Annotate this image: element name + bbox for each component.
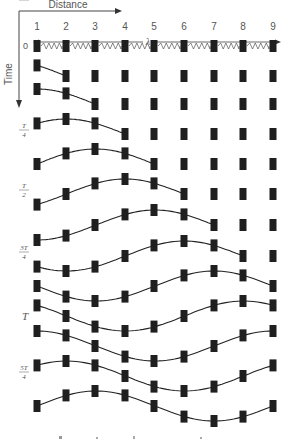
- time-axis: Time: [3, 11, 22, 108]
- mass-block: [240, 40, 247, 52]
- mass-block: [211, 70, 218, 82]
- mass-block: [270, 128, 277, 140]
- spring: [99, 43, 121, 49]
- wave-curve: [37, 179, 184, 205]
- spring: [41, 43, 62, 49]
- mass-block: [151, 400, 158, 412]
- mass-block: [211, 128, 218, 140]
- mass-block: [34, 400, 41, 412]
- mass-block: [240, 158, 247, 170]
- mass-block: [63, 389, 70, 401]
- mass-block: [92, 117, 99, 129]
- mass-block: [240, 411, 247, 423]
- mass-block: [151, 70, 158, 82]
- mass-block: [181, 235, 188, 247]
- spring: [218, 43, 239, 49]
- mass-block: [181, 385, 188, 397]
- mass-block: [122, 128, 129, 140]
- mass-block: [181, 158, 188, 170]
- mass-block: [34, 234, 41, 246]
- mass-block: [92, 219, 99, 231]
- mass-block: [151, 158, 158, 170]
- mass-block: [63, 70, 70, 82]
- mass-block: [270, 70, 277, 82]
- mass-block: [240, 219, 247, 231]
- mass-block: [63, 291, 70, 303]
- mass-block: [63, 40, 70, 52]
- mass-block: [92, 98, 99, 110]
- mass-block: [122, 325, 129, 337]
- mass-block: [63, 147, 70, 159]
- mass-block: [240, 370, 247, 382]
- time-label-numerator: T: [22, 122, 27, 130]
- mass-block: [211, 239, 218, 251]
- mass-block: [181, 269, 188, 281]
- wave-diagram: Distance Time λ 123456789 0T4T23T4T5T43T…: [0, 0, 286, 439]
- mass-block: [63, 329, 70, 341]
- time-label-denominator: 4: [22, 131, 26, 139]
- time-label-denominator: 4: [22, 253, 26, 261]
- mass-block: [270, 40, 277, 52]
- mass-block: [34, 261, 41, 273]
- time-label: T: [22, 310, 29, 322]
- distance-axis: Distance: [19, 0, 122, 14]
- mass-block: [151, 204, 158, 216]
- distance-arrow-icon: [115, 8, 122, 14]
- mass-block: [122, 147, 129, 159]
- mass-block: [63, 355, 70, 367]
- time-label-denominator: 2: [22, 0, 26, 2]
- mass-block: [211, 265, 218, 277]
- column-label: 1: [34, 21, 40, 32]
- mass-block: [63, 265, 70, 277]
- column-label: 9: [270, 21, 276, 32]
- mass-block: [92, 143, 99, 155]
- mass-block: [122, 250, 129, 262]
- mass-block: [92, 321, 99, 333]
- column-labels: 123456789: [34, 21, 276, 32]
- mass-block: [211, 158, 218, 170]
- mass-block: [92, 40, 99, 52]
- mass-block: [270, 250, 277, 262]
- masses: [34, 40, 277, 427]
- time-label-numerator: 5T: [20, 364, 29, 372]
- mass-block: [122, 98, 129, 110]
- column-label: 7: [211, 21, 217, 32]
- mass-block: [34, 280, 41, 292]
- mass-block: [34, 325, 41, 337]
- mass-block: [151, 177, 158, 189]
- mass-block: [211, 415, 218, 427]
- mass-block: [92, 359, 99, 371]
- column-label: 5: [151, 21, 157, 32]
- mass-block: [270, 280, 277, 292]
- wave-curve: [37, 65, 66, 76]
- column-label: 8: [240, 21, 246, 32]
- mass-block: [211, 340, 218, 352]
- mass-block: [92, 295, 99, 307]
- wavelength-symbol: λ: [145, 36, 151, 47]
- mass-block: [122, 208, 129, 220]
- mass-block: [34, 299, 41, 311]
- mass-block: [181, 128, 188, 140]
- mass-block: [34, 158, 41, 170]
- mass-block: [240, 329, 247, 341]
- mass-block: [92, 340, 99, 352]
- mass-block: [270, 359, 277, 371]
- mass-block: [240, 188, 247, 200]
- column-label: 2: [63, 21, 69, 32]
- mass-block: [122, 70, 129, 82]
- time-labels: 0T4T23T4T5T43T2: [19, 0, 29, 381]
- time-label-numerator: T: [22, 182, 27, 190]
- mass-block: [181, 310, 188, 322]
- mass-block: [151, 128, 158, 140]
- mass-block: [34, 117, 41, 129]
- spring: [247, 43, 269, 49]
- mass-block: [240, 70, 247, 82]
- mass-block: [122, 173, 129, 185]
- mass-block: [240, 269, 247, 281]
- column-label: 3: [92, 21, 98, 32]
- mass-block: [211, 299, 218, 311]
- mass-block: [122, 40, 129, 52]
- mass-block: [122, 291, 129, 303]
- mass-block: [34, 59, 41, 71]
- mass-block: [181, 351, 188, 363]
